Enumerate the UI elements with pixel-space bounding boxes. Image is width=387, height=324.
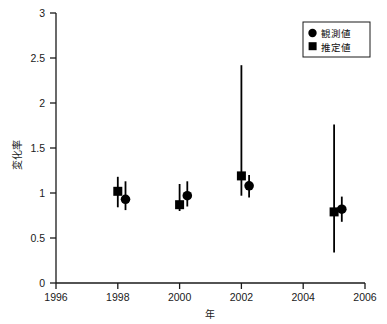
marker-estimated-2002 [237, 171, 246, 180]
y-label-0-5: 0.5 [30, 232, 45, 244]
legend-label-estimated: 推定値 [321, 42, 351, 53]
chart-container: 3 2.5 2 1.5 1 0.5 0 1996 1998 2000 2002 … [0, 0, 387, 324]
legend-circle-icon [308, 29, 316, 37]
x-label-2006: 2006 [353, 291, 377, 303]
legend-label-observed: 観測値 [321, 28, 351, 39]
marker-observed-2005 [337, 204, 347, 214]
x-label-2004: 2004 [292, 291, 316, 303]
marker-observed-1998 [121, 195, 131, 205]
x-label-2002: 2002 [230, 291, 254, 303]
y-label-2-5: 2.5 [30, 52, 45, 64]
marker-observed-2000 [183, 191, 193, 201]
marker-estimated-2000 [175, 200, 184, 209]
y-label-1: 1 [39, 187, 45, 199]
y-axis-title: 変化率 [11, 140, 23, 170]
x-label-1996: 1996 [44, 291, 68, 303]
x-label-1998: 1998 [106, 291, 130, 303]
legend-square-icon [309, 42, 317, 50]
y-label-2: 2 [39, 97, 45, 109]
scatter-plot-svg: 3 2.5 2 1.5 1 0.5 0 1996 1998 2000 2002 … [0, 0, 387, 324]
marker-observed-2002 [244, 181, 254, 191]
marker-estimated-1998 [113, 187, 122, 196]
chart-legend: 観測値 推定値 [303, 22, 370, 57]
y-label-3: 3 [39, 7, 45, 19]
y-label-0: 0 [39, 277, 45, 289]
x-axis-title: 年 [205, 308, 215, 320]
y-label-1-5: 1.5 [30, 142, 45, 154]
x-label-2000: 2000 [168, 291, 192, 303]
